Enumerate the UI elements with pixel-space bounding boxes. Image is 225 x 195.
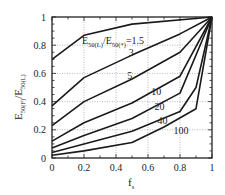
x-tick-label: 0.4 [110, 162, 123, 173]
curve-label-3: 3 [129, 47, 134, 58]
x-tick-label: 0.2 [78, 162, 91, 173]
y-tick-label: 0.4 [34, 96, 47, 107]
curve-label-10: 10 [151, 86, 161, 97]
curve-labels: 35102040100 [127, 47, 188, 136]
x-tick-label: 0.6 [142, 162, 155, 173]
curve-label-40: 40 [158, 115, 168, 126]
x-tick-label: 0 [50, 162, 55, 173]
y-tick-label: 0.2 [34, 124, 47, 135]
y-axis-title: E50(F)/E50(L) [12, 74, 27, 120]
y-tick-label: 0.8 [34, 40, 47, 51]
x-axis-title: fs [128, 176, 135, 190]
y-tick-label: 0.6 [34, 68, 47, 79]
y-tick-labels: 00.20.40.60.81 [34, 12, 47, 164]
y-tick-label: 1 [41, 12, 46, 23]
curve-label-20: 20 [154, 101, 164, 112]
chart: 00.20.40.60.81 00.20.40.60.81 3510204010… [0, 0, 225, 195]
x-tick-label: 0.8 [174, 162, 187, 173]
y-tick-label: 0 [41, 153, 46, 164]
x-tick-labels: 00.20.40.60.81 [50, 162, 215, 173]
parameter-label: E50(L)/E50(*)=1.5 [82, 35, 144, 49]
curve-label-100: 100 [174, 125, 189, 136]
curve-label-5: 5 [127, 70, 132, 81]
x-tick-label: 1 [210, 162, 215, 173]
